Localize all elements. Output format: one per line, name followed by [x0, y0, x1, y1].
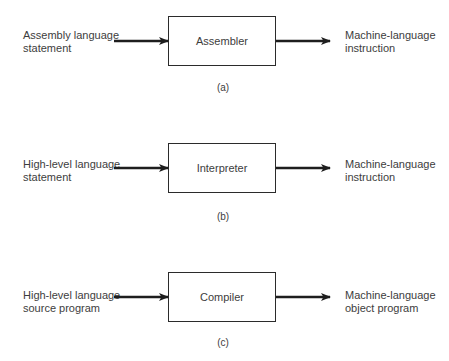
output-label-b: Machine-language instruction: [345, 158, 436, 184]
input-line-1: High-level language: [23, 289, 120, 302]
input-label-b: High-level language statement: [23, 158, 120, 184]
input-line-2: source program: [23, 302, 120, 315]
caption-b: (b): [200, 211, 246, 222]
output-line-2: instruction: [345, 171, 436, 184]
output-line-1: Machine-language: [345, 158, 436, 171]
process-label: Assembler: [196, 35, 248, 47]
caption-c: (c): [200, 337, 246, 348]
caption-a: (a): [200, 82, 246, 93]
input-line-1: High-level language: [23, 158, 120, 171]
output-label-a: Machine-language instruction: [345, 29, 436, 55]
input-line-2: statement: [23, 171, 120, 184]
output-line-2: instruction: [345, 42, 436, 55]
translation-diagram: Assembly language statement Assembler Ma…: [0, 0, 449, 361]
process-label: Compiler: [200, 291, 244, 303]
input-line-1: Assembly language: [23, 29, 119, 42]
process-label: Interpreter: [197, 162, 248, 174]
input-label-c: High-level language source program: [23, 289, 120, 315]
process-box-compiler: Compiler: [168, 272, 276, 322]
process-box-assembler: Assembler: [168, 16, 276, 66]
output-line-2: object program: [345, 302, 436, 315]
input-label-a: Assembly language statement: [23, 29, 119, 55]
process-box-interpreter: Interpreter: [168, 143, 276, 193]
output-line-1: Machine-language: [345, 29, 436, 42]
output-line-1: Machine-language: [345, 289, 436, 302]
input-line-2: statement: [23, 42, 119, 55]
output-label-c: Machine-language object program: [345, 289, 436, 315]
